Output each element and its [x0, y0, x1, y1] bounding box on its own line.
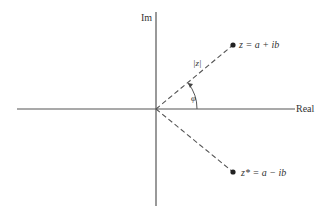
point-z-conjugate-label: z* = a − ib	[240, 167, 286, 178]
complex-plane-diagram: Im Real z = a + ib z* = a − ib |z| φ	[0, 0, 333, 214]
imaginary-axis-label: Im	[141, 12, 152, 23]
angle-arrowhead-icon	[188, 83, 193, 88]
point-z-label: z = a + ib	[238, 39, 279, 50]
point-z-conjugate	[230, 169, 235, 174]
modulus-label: |z|	[193, 58, 201, 68]
angle-label: φ	[191, 93, 196, 103]
real-axis-label: Real	[296, 103, 315, 114]
point-z	[230, 42, 235, 47]
vector-z-conjugate	[156, 109, 233, 172]
